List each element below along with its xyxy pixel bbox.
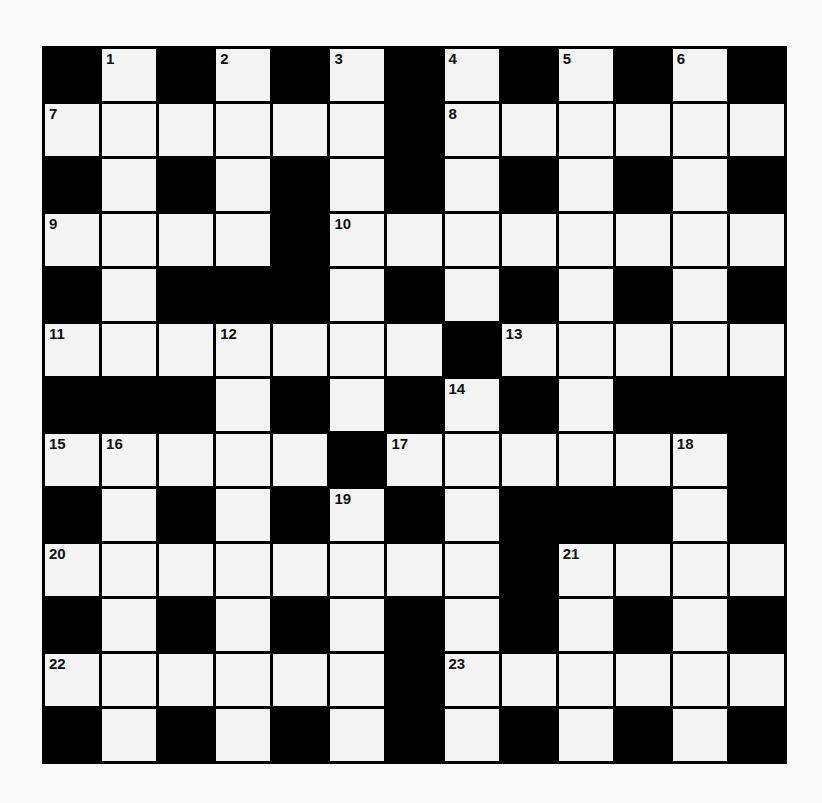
- answer-cell[interactable]: [216, 709, 270, 761]
- answer-cell[interactable]: [159, 214, 213, 266]
- answer-cell[interactable]: [445, 709, 499, 761]
- answer-cell[interactable]: 1: [102, 49, 156, 101]
- answer-cell[interactable]: 22: [45, 654, 99, 706]
- answer-cell[interactable]: [102, 104, 156, 156]
- answer-cell[interactable]: [559, 654, 613, 706]
- answer-cell[interactable]: [559, 214, 613, 266]
- answer-cell[interactable]: [673, 654, 727, 706]
- answer-cell[interactable]: [102, 654, 156, 706]
- answer-cell[interactable]: 23: [445, 654, 499, 706]
- answer-cell[interactable]: 20: [45, 544, 99, 596]
- answer-cell[interactable]: [273, 654, 327, 706]
- answer-cell[interactable]: [216, 379, 270, 431]
- answer-cell[interactable]: [216, 214, 270, 266]
- answer-cell[interactable]: [502, 654, 556, 706]
- answer-cell[interactable]: [445, 269, 499, 321]
- answer-cell[interactable]: [159, 104, 213, 156]
- answer-cell[interactable]: [159, 654, 213, 706]
- answer-cell[interactable]: [102, 599, 156, 651]
- answer-cell[interactable]: 5: [559, 49, 613, 101]
- answer-cell[interactable]: [387, 214, 441, 266]
- answer-cell[interactable]: [559, 379, 613, 431]
- answer-cell[interactable]: [102, 159, 156, 211]
- answer-cell[interactable]: [216, 104, 270, 156]
- answer-cell[interactable]: [445, 214, 499, 266]
- answer-cell[interactable]: [102, 489, 156, 541]
- answer-cell[interactable]: [559, 269, 613, 321]
- answer-cell[interactable]: 10: [330, 214, 384, 266]
- answer-cell[interactable]: [502, 214, 556, 266]
- answer-cell[interactable]: [102, 324, 156, 376]
- answer-cell[interactable]: 19: [330, 489, 384, 541]
- answer-cell[interactable]: [330, 709, 384, 761]
- answer-cell[interactable]: [330, 269, 384, 321]
- answer-cell[interactable]: [273, 544, 327, 596]
- answer-cell[interactable]: [616, 324, 670, 376]
- answer-cell[interactable]: [673, 269, 727, 321]
- answer-cell[interactable]: 3: [330, 49, 384, 101]
- answer-cell[interactable]: [216, 489, 270, 541]
- answer-cell[interactable]: [330, 104, 384, 156]
- answer-cell[interactable]: [330, 654, 384, 706]
- answer-cell[interactable]: [330, 379, 384, 431]
- answer-cell[interactable]: 16: [102, 434, 156, 486]
- answer-cell[interactable]: [616, 654, 670, 706]
- answer-cell[interactable]: [616, 104, 670, 156]
- answer-cell[interactable]: [216, 599, 270, 651]
- answer-cell[interactable]: [673, 104, 727, 156]
- answer-cell[interactable]: [673, 709, 727, 761]
- answer-cell[interactable]: [273, 324, 327, 376]
- answer-cell[interactable]: [273, 104, 327, 156]
- answer-cell[interactable]: 13: [502, 324, 556, 376]
- answer-cell[interactable]: [445, 489, 499, 541]
- answer-cell[interactable]: [387, 324, 441, 376]
- answer-cell[interactable]: [159, 324, 213, 376]
- answer-cell[interactable]: [330, 599, 384, 651]
- answer-cell[interactable]: [673, 159, 727, 211]
- answer-cell[interactable]: 15: [45, 434, 99, 486]
- answer-cell[interactable]: [673, 544, 727, 596]
- answer-cell[interactable]: [273, 434, 327, 486]
- answer-cell[interactable]: 7: [45, 104, 99, 156]
- answer-cell[interactable]: 17: [387, 434, 441, 486]
- answer-cell[interactable]: 12: [216, 324, 270, 376]
- answer-cell[interactable]: 14: [445, 379, 499, 431]
- answer-cell[interactable]: [216, 654, 270, 706]
- answer-cell[interactable]: [730, 214, 784, 266]
- answer-cell[interactable]: 9: [45, 214, 99, 266]
- answer-cell[interactable]: 8: [445, 104, 499, 156]
- answer-cell[interactable]: [559, 434, 613, 486]
- answer-cell[interactable]: [502, 104, 556, 156]
- answer-cell[interactable]: [445, 159, 499, 211]
- answer-cell[interactable]: [216, 434, 270, 486]
- answer-cell[interactable]: [559, 324, 613, 376]
- answer-cell[interactable]: [445, 544, 499, 596]
- answer-cell[interactable]: [673, 324, 727, 376]
- answer-cell[interactable]: [730, 654, 784, 706]
- answer-cell[interactable]: 21: [559, 544, 613, 596]
- answer-cell[interactable]: [616, 434, 670, 486]
- answer-cell[interactable]: [216, 544, 270, 596]
- answer-cell[interactable]: [616, 214, 670, 266]
- answer-cell[interactable]: [159, 544, 213, 596]
- answer-cell[interactable]: [559, 104, 613, 156]
- answer-cell[interactable]: [330, 544, 384, 596]
- answer-cell[interactable]: [102, 709, 156, 761]
- answer-cell[interactable]: [216, 159, 270, 211]
- answer-cell[interactable]: [102, 269, 156, 321]
- answer-cell[interactable]: [502, 434, 556, 486]
- answer-cell[interactable]: [330, 324, 384, 376]
- answer-cell[interactable]: [445, 434, 499, 486]
- answer-cell[interactable]: [730, 104, 784, 156]
- answer-cell[interactable]: [102, 544, 156, 596]
- answer-cell[interactable]: [616, 544, 670, 596]
- answer-cell[interactable]: [159, 434, 213, 486]
- answer-cell[interactable]: [102, 214, 156, 266]
- answer-cell[interactable]: [673, 489, 727, 541]
- answer-cell[interactable]: [445, 599, 499, 651]
- answer-cell[interactable]: [730, 544, 784, 596]
- answer-cell[interactable]: [730, 324, 784, 376]
- answer-cell[interactable]: [330, 159, 384, 211]
- answer-cell[interactable]: [559, 599, 613, 651]
- answer-cell[interactable]: 2: [216, 49, 270, 101]
